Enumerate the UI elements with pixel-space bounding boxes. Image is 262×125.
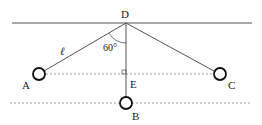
label-c: C bbox=[228, 79, 235, 91]
ball-a bbox=[33, 68, 45, 80]
string-dc bbox=[126, 23, 214, 71]
ball-b bbox=[120, 97, 132, 109]
label-a: A bbox=[22, 79, 30, 91]
label-b: B bbox=[132, 110, 139, 122]
right-angle-marker bbox=[122, 70, 126, 74]
label-length: ℓ bbox=[60, 45, 65, 57]
ball-c bbox=[214, 68, 226, 80]
label-d: D bbox=[121, 8, 129, 20]
pendulum-diagram: D A C E B ℓ 60° bbox=[0, 0, 262, 125]
label-e: E bbox=[130, 78, 137, 90]
label-angle: 60° bbox=[103, 42, 117, 53]
